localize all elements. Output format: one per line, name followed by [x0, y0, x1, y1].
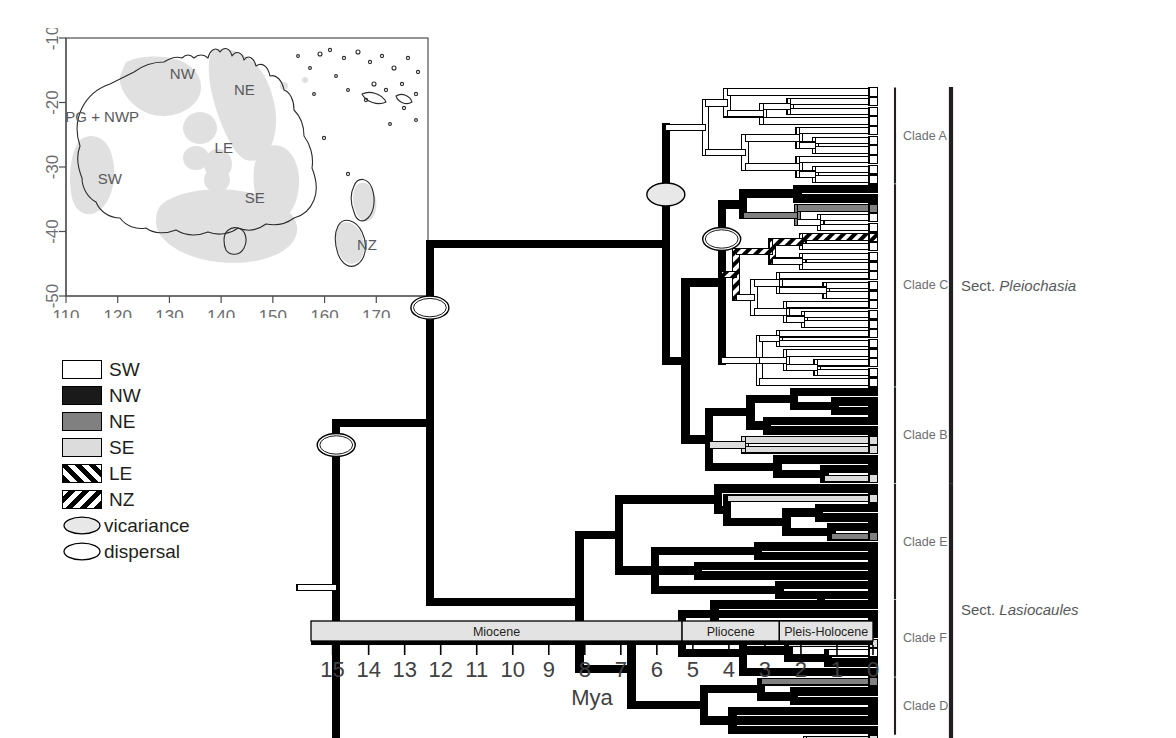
internal-branch — [718, 507, 727, 514]
tip-state-box — [869, 455, 877, 463]
internal-branch — [722, 201, 744, 208]
terminal-branch — [767, 417, 873, 424]
internal-branch — [787, 316, 805, 322]
terminal-branch — [815, 147, 873, 153]
tip-state-box — [869, 707, 877, 715]
internal-branch — [709, 442, 745, 448]
tip-state-box — [869, 349, 877, 357]
internal-branch — [682, 611, 714, 618]
terminal-branch — [832, 534, 873, 540]
tip-state-box — [869, 697, 877, 705]
tip-state-box — [869, 88, 877, 96]
clade-label-E: Clade E — [903, 535, 947, 549]
terminal-branch — [758, 553, 873, 560]
internal-branch — [799, 142, 815, 148]
internal-branch — [754, 280, 779, 286]
terminal-branch — [799, 156, 873, 162]
terminal-branch — [733, 707, 874, 714]
tip-state-box — [869, 600, 877, 608]
terminal-branch — [815, 137, 873, 143]
tip-state-box — [869, 214, 877, 222]
terminal-branch — [824, 466, 873, 473]
tip-state-box — [869, 156, 877, 164]
terminal-branch — [797, 185, 873, 192]
tip-state-box — [869, 320, 877, 328]
internal-branch — [655, 586, 779, 593]
tip-state-box — [869, 98, 877, 106]
terminal-branch — [799, 127, 873, 133]
tip-state-box — [869, 301, 877, 309]
axis-tick-label: 6 — [651, 657, 663, 682]
internal-branch — [745, 135, 799, 141]
terminal-branch — [821, 591, 873, 598]
terminal-branch — [787, 302, 873, 308]
internal-branch — [722, 271, 736, 277]
tip-state-box — [869, 716, 877, 724]
internal-branch — [778, 470, 825, 477]
terminal-branch — [758, 543, 873, 550]
section-label-1: Sect. Lasiocaules — [961, 601, 1079, 618]
terminal-branch — [803, 244, 873, 250]
terminal-branch — [826, 282, 873, 288]
internal-branch — [743, 190, 797, 197]
terminal-branch — [805, 321, 873, 327]
node-connector — [333, 420, 340, 738]
tip-state-box — [869, 591, 877, 599]
internal-branch — [655, 567, 698, 574]
terminal-branch — [821, 215, 873, 221]
internal-branch — [736, 248, 772, 254]
internal-branch — [761, 693, 793, 700]
terminal-branch — [815, 176, 873, 182]
tip-state-box — [869, 581, 877, 589]
tip-state-box — [869, 165, 877, 173]
chronogram: Clade AClade CClade BClade EClade FClade… — [0, 0, 1176, 738]
internal-branch — [682, 649, 743, 656]
terminal-branch — [778, 456, 873, 463]
internal-branch — [754, 309, 786, 315]
tip-state-box — [869, 523, 877, 531]
terminal-branch — [718, 485, 873, 492]
axis-tick-label: 7 — [615, 657, 627, 682]
internal-branch — [727, 111, 763, 117]
epoch-label-pliocene: Pliocene — [707, 625, 755, 639]
axis-tick-label: 4 — [723, 657, 735, 682]
terminal-branch — [817, 369, 873, 375]
node-marker-dispersal — [703, 227, 741, 250]
terminal-branch — [733, 717, 874, 724]
tip-state-box — [869, 484, 877, 492]
terminal-branch — [779, 331, 873, 337]
axis-tick-label: 14 — [356, 657, 380, 682]
internal-branch — [666, 357, 686, 364]
terminal-branch — [805, 311, 873, 317]
axis-tick-label: 8 — [579, 657, 591, 682]
terminal-branch — [803, 234, 873, 240]
tree-node-markers — [317, 183, 740, 456]
tip-state-box — [869, 310, 877, 318]
internal-branch — [704, 686, 762, 693]
terminal-branch — [835, 408, 873, 415]
terminal-branch — [826, 292, 873, 298]
tip-state-box — [869, 533, 877, 541]
axis-tick-label: 13 — [392, 657, 416, 682]
tip-state-box — [869, 368, 877, 376]
tip-state-box — [869, 552, 877, 560]
terminal-branch — [803, 263, 873, 269]
terminal-branch — [790, 98, 873, 104]
internal-branch — [751, 395, 794, 402]
section-brackets: Sect. PleiochasiaSect. LasiocaulesSect. … — [951, 87, 1176, 738]
tip-state-box — [869, 436, 877, 444]
tip-state-box — [869, 494, 877, 502]
tip-state-box — [869, 388, 877, 396]
tip-state-box — [869, 726, 877, 734]
terminal-branch — [803, 253, 873, 259]
internal-branch — [760, 335, 780, 341]
chronogram-panel: Clade AClade CClade BClade EClade FClade… — [0, 0, 1176, 738]
internal-branch — [705, 149, 745, 155]
tip-state-box — [869, 146, 877, 154]
internal-branch — [743, 212, 797, 218]
internal-branch — [797, 219, 820, 225]
internal-branch — [745, 164, 799, 170]
terminal-branch — [797, 205, 873, 211]
internal-branch — [655, 548, 758, 555]
tip-state-box — [869, 378, 877, 386]
